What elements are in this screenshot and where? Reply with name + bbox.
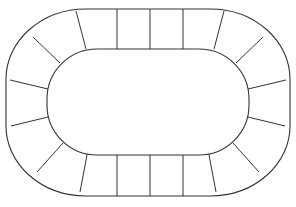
space-divider: [214, 11, 224, 49]
space-divider: [236, 37, 263, 63]
inner-track-edge: [47, 49, 249, 155]
caption: [0, 201, 296, 207]
space-divider: [248, 117, 285, 126]
space-divider: [76, 11, 86, 49]
space-divider: [80, 155, 87, 192]
space-divider: [37, 143, 63, 172]
space-divider: [10, 80, 48, 89]
space-divider: [11, 117, 48, 126]
outer-track-edge: [6, 9, 290, 196]
space-divider: [233, 143, 259, 172]
space-divider: [209, 155, 216, 192]
oval-track-board: [0, 0, 296, 207]
space-divider: [248, 80, 286, 89]
space-dividers: [10, 9, 286, 196]
space-divider: [33, 37, 60, 63]
